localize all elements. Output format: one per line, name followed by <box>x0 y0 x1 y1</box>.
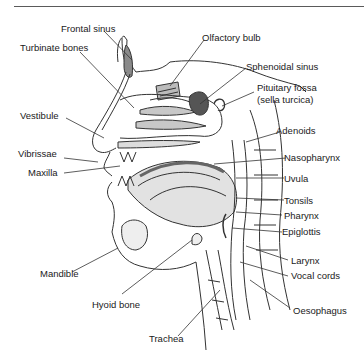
mandible-bone <box>122 220 148 250</box>
label-vestibule: Vestibule <box>20 110 59 121</box>
label-adenoids: Adenoids <box>276 125 316 136</box>
label-vibrissae: Vibrissae <box>18 148 57 159</box>
label-turbinate-bones: Turbinate bones <box>20 42 88 53</box>
label-mandible: Mandible <box>40 268 79 279</box>
label-hyoid-bone: Hyoid bone <box>92 299 140 310</box>
label-nasopharynx: Nasopharynx <box>284 152 340 163</box>
turbinate-2 <box>136 120 206 129</box>
label-maxilla: Maxilla <box>28 167 58 178</box>
label-oesophagus: Oesophagus <box>293 305 347 316</box>
upper-teeth <box>120 152 136 162</box>
label-trachea: Trachea <box>149 333 184 344</box>
hard-palate <box>118 141 200 149</box>
pharynx-wall <box>231 140 236 320</box>
label-sella-turcica: (sella turcica) <box>257 94 314 105</box>
hyoid-shape <box>192 234 202 245</box>
lower-lip <box>108 182 115 232</box>
frontal-sinus-shape <box>124 45 133 77</box>
label-vocal-cords: Vocal cords <box>291 270 340 281</box>
label-tonsils: Tonsils <box>284 195 313 206</box>
label-olfactory-bulb: Olfactory bulb <box>202 32 261 43</box>
label-uvula: Uvula <box>284 173 308 184</box>
neck-front <box>196 262 206 350</box>
turbinate-1 <box>140 106 196 115</box>
upper-lip <box>104 152 112 176</box>
label-pharynx: Pharynx <box>284 210 319 221</box>
nose-outline <box>93 72 126 153</box>
label-sphenoidal-sinus: Sphenoidal sinus <box>246 61 318 72</box>
turbinate-3 <box>150 98 190 102</box>
label-epiglottis: Epiglottis <box>282 226 321 237</box>
label-frontal-sinus: Frontal sinus <box>61 23 115 34</box>
head-section-illustration <box>0 0 364 356</box>
label-pituitary-fossa: Pituitary fossa <box>257 82 317 93</box>
label-larynx: Larynx <box>291 255 320 266</box>
